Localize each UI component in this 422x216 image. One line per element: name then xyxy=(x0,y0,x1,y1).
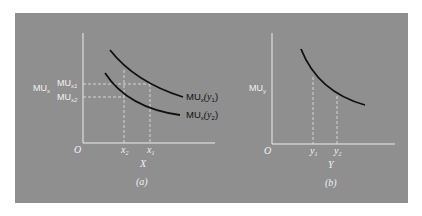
panel-a: MUx MUx1 MUx2 MUx(y1) MUx(y2) O x2 x1 X … xyxy=(33,33,218,188)
tick-y2: y2 xyxy=(333,145,341,157)
panel-b: MUy O y1 y2 Y (b) xyxy=(249,33,395,189)
tick-mux1: MUx1 xyxy=(57,78,77,89)
tick-x1: x1 xyxy=(146,144,154,156)
panel-b-origin: O xyxy=(264,145,271,156)
tick-mux2: MUx2 xyxy=(57,92,78,103)
panel-b-x-axis-label: Y xyxy=(328,159,335,170)
panel-a-caption: (a) xyxy=(136,176,148,188)
curve-muy xyxy=(301,49,365,105)
panel-a-y-axis-label: MUx xyxy=(33,83,50,94)
tick-y1: y1 xyxy=(309,145,317,157)
curve-mux-y1-label: MUx(y1) xyxy=(186,91,218,103)
panel-a-origin: O xyxy=(74,144,81,155)
diagram-svg: MUx MUx1 MUx2 MUx(y1) MUx(y2) O x2 x1 X … xyxy=(0,0,422,216)
tick-x2: x2 xyxy=(120,144,128,156)
panel-a-x-axis-label: X xyxy=(139,158,147,169)
panel-b-y-axis-label: MUy xyxy=(249,83,266,94)
panel-b-caption: (b) xyxy=(325,177,337,189)
curve-mux-y2-label: MUx(y2) xyxy=(186,109,218,121)
